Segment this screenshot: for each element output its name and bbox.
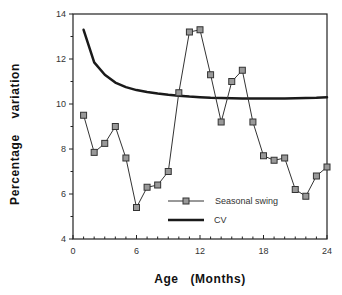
data-point-square-marker (313, 173, 319, 179)
series-layer (81, 27, 330, 211)
data-point-square-marker (271, 157, 277, 163)
y-tick-label: 4 (61, 234, 66, 244)
data-point-square-marker (186, 29, 192, 35)
x-tick-label: 6 (134, 246, 139, 256)
data-point-square-marker (239, 67, 245, 73)
data-point-square-marker (165, 169, 171, 175)
data-point-square-marker (229, 79, 235, 85)
data-point-square-marker (208, 72, 214, 78)
data-point-square-marker (197, 27, 203, 33)
legend-label-seasonal-swing: Seasonal swing (215, 196, 278, 206)
x-tick-label: 24 (322, 246, 332, 256)
data-point-square-marker (102, 140, 108, 146)
data-point-square-marker (218, 119, 224, 125)
data-point-square-marker (134, 205, 140, 211)
x-tick-label: 0 (70, 246, 75, 256)
data-point-square-marker (292, 187, 298, 193)
plot-frame (73, 14, 327, 239)
x-tick-label: 12 (195, 246, 205, 256)
data-point-square-marker (324, 164, 330, 170)
data-point-square-marker (144, 184, 150, 190)
y-tick-label: 6 (61, 189, 66, 199)
x-axis-title: Age (Months) (154, 272, 246, 286)
data-point-square-marker (123, 155, 129, 161)
data-point-square-marker (261, 153, 267, 159)
data-point-square-marker (250, 119, 256, 125)
line-chart: 06121824468101214 Seasonal swing CV Age … (0, 0, 342, 295)
y-tick-label: 10 (56, 99, 66, 109)
y-tick-label: 8 (61, 144, 66, 154)
data-point-square-marker (303, 193, 309, 199)
data-point-square-marker (282, 155, 288, 161)
y-axis-title: Percentage variation (8, 63, 22, 205)
y-tick-label: 12 (56, 54, 66, 64)
data-point-square-marker (91, 149, 97, 155)
series-line-seasonal-swing (84, 30, 327, 208)
legend-square-marker-icon (183, 198, 189, 204)
data-point-square-marker (176, 90, 182, 96)
data-point-square-marker (81, 112, 87, 118)
legend-label-cv: CV (214, 215, 227, 225)
legend: Seasonal swing CV (168, 196, 278, 225)
y-tick-label: 14 (56, 9, 66, 19)
x-tick-label: 18 (258, 246, 268, 256)
series-line-cv (84, 30, 327, 99)
data-point-square-marker (112, 124, 118, 130)
data-point-square-marker (155, 182, 161, 188)
